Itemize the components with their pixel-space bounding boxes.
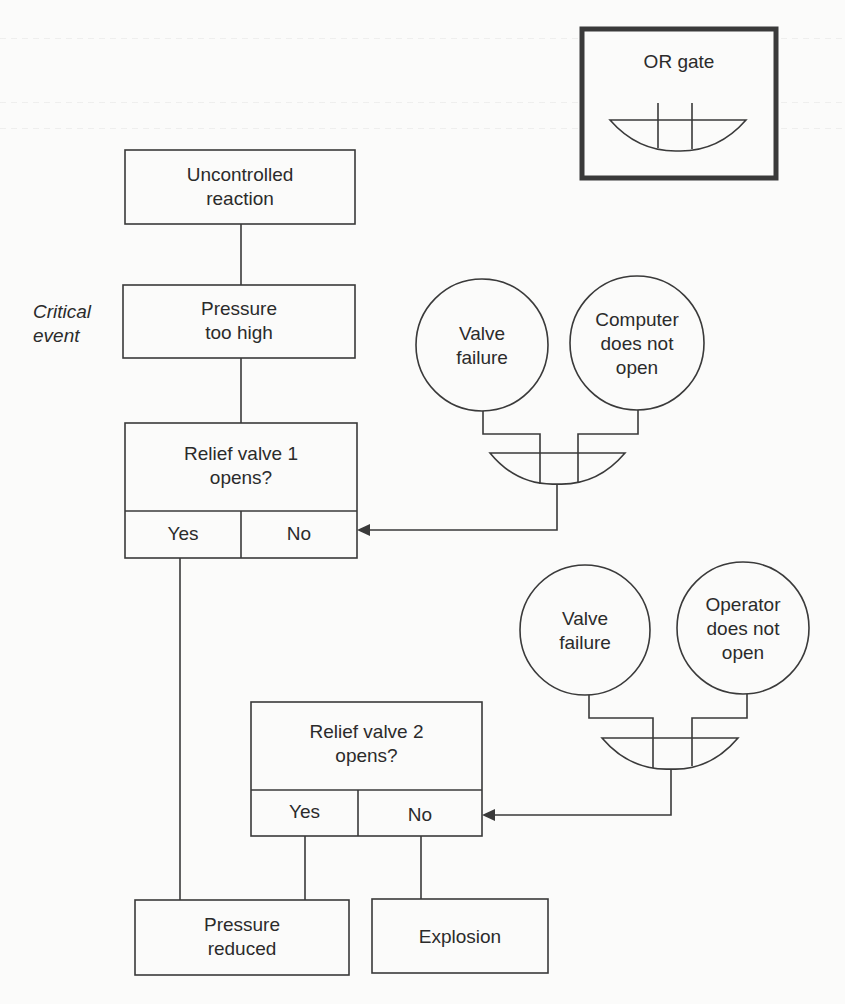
event-tree-diagram	[0, 0, 845, 1004]
gate-input-line	[589, 695, 653, 768]
or-gate-icon	[490, 453, 625, 484]
node-label-uncontrolled-reaction: Uncontrolled reaction	[125, 163, 355, 211]
gate-output-line	[365, 484, 557, 530]
or-gate-icon	[602, 738, 738, 769]
arrow-head-icon	[357, 524, 370, 536]
gate-input-line	[578, 410, 638, 482]
node-label-relief-valve-2: Relief valve 2 opens?	[251, 720, 482, 768]
relief-valve-2-yes: Yes	[251, 800, 358, 824]
node-label-pressure-too-high: Pressure too high	[123, 297, 355, 345]
arrow-head-icon	[482, 809, 495, 821]
node-label-explosion: Explosion	[372, 925, 548, 949]
relief-valve-1-no: No	[241, 522, 357, 546]
legend-title: OR gate	[582, 50, 776, 74]
event-label-operator-does-not-open: Operator does not open	[681, 593, 805, 665]
gate-output-line	[490, 769, 671, 815]
event-label-computer-does-not-open: Computer does not open	[575, 308, 699, 380]
critical-event-label: Critical event	[33, 300, 91, 348]
node-label-relief-valve-1: Relief valve 1 opens?	[125, 442, 357, 490]
event-label-valve-failure-1: Valve failure	[422, 322, 542, 370]
event-label-valve-failure-2: Valve failure	[525, 607, 645, 655]
relief-valve-2-no: No	[358, 803, 482, 827]
node-label-pressure-reduced: Pressure reduced	[135, 913, 349, 961]
relief-valve-1-yes: Yes	[125, 522, 241, 546]
